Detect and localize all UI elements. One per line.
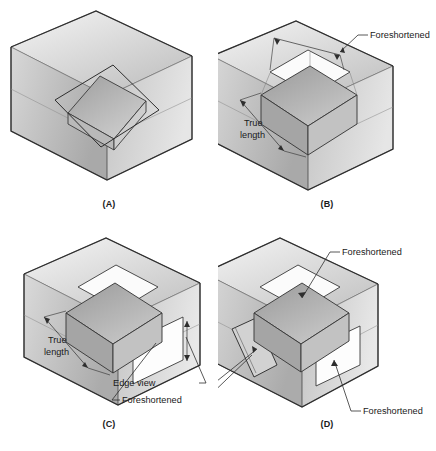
panel-b: Foreshortened True length (B): [218, 0, 436, 225]
panel-d: Foreshortened Foreshortened (D): [218, 225, 436, 451]
panel-a: (A): [0, 0, 218, 225]
panel-a-caption: (A): [0, 199, 218, 209]
label-foreshortened: Foreshortened: [122, 395, 182, 405]
panel-b-caption: (B): [218, 199, 436, 209]
panel-c-caption: (C): [0, 419, 218, 429]
label-true-length-line2: length: [240, 130, 265, 140]
label-true-length-line2: length: [44, 347, 69, 357]
label-true-length-line1: True: [244, 118, 263, 128]
label-foreshortened: Foreshortened: [370, 30, 430, 40]
label-edge-view: Edge view: [113, 378, 156, 388]
panel-c: True length Edge view Foreshortened (C): [0, 225, 218, 451]
panel-d-caption: (D): [218, 419, 436, 429]
label-foreshortened-top: Foreshortened: [342, 247, 402, 257]
figure-orthographic-projection: (A): [0, 0, 436, 451]
label-foreshortened-right: Foreshortened: [363, 406, 423, 416]
label-true-length-line1: True: [48, 335, 67, 345]
